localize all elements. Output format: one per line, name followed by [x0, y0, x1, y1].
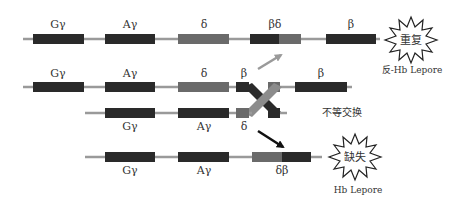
gene-beta: [295, 82, 347, 92]
label-a-gamma: Aγ: [122, 18, 138, 31]
label-g-gamma: Gγ: [50, 18, 66, 31]
gene-a-gamma: [178, 108, 229, 118]
row-parental-bottom: Gγ Aγ δ 不等交换: [85, 106, 362, 133]
gene-delta-beta-delta-part: [252, 152, 282, 162]
arrow-to-lepore: [258, 131, 283, 147]
label-g-gamma: Gγ: [122, 164, 138, 177]
label-delta: δ: [201, 67, 208, 80]
gene-g-gamma: [33, 82, 84, 92]
label-delta-beta: δβ: [276, 164, 289, 177]
gene-a-gamma: [178, 152, 229, 162]
label-delta: δ: [201, 18, 208, 31]
burst-duplication: 重复: [385, 17, 437, 63]
gene-delta-5prime: [236, 108, 249, 118]
burst-text-duplication: 重复: [400, 33, 422, 47]
gene-g-gamma: [33, 34, 84, 44]
label-beta-delta: βδ: [269, 18, 282, 31]
row-parental-top: Gγ Aγ δ β β: [23, 67, 352, 92]
caption-lepore: Hb Lepore: [334, 185, 383, 195]
gene-delta-beta-beta-part: [282, 152, 311, 162]
row-anti-lepore: Gγ Aγ δ βδ β 重复 反-Hb Lepore: [23, 17, 442, 75]
gene-beta: [326, 34, 376, 44]
gene-g-gamma: [105, 108, 155, 118]
gene-beta-3prime: [268, 108, 280, 118]
label-unequal-crossover: 不等交换: [322, 106, 362, 118]
gene-a-gamma: [105, 34, 155, 44]
gene-delta: [178, 82, 229, 92]
arrow-to-anti-lepore: [258, 55, 281, 69]
label-g-gamma: Gγ: [122, 120, 138, 133]
burst-text-deletion: 缺失: [344, 150, 366, 164]
label-beta-cross: β: [241, 67, 247, 80]
label-beta: β: [318, 67, 324, 80]
gene-beta-delta-beta-part: [250, 34, 279, 44]
label-delta-cross: δ: [241, 120, 248, 133]
unequal-crossover-diagram: Gγ Aγ δ βδ β 重复 反-Hb Lepore Gγ Aγ δ β β: [0, 0, 462, 205]
label-a-gamma: Aγ: [196, 164, 212, 177]
label-g-gamma: Gγ: [50, 67, 66, 80]
label-a-gamma: Aγ: [122, 67, 138, 80]
row-lepore: Gγ Aγ δβ 缺失 Hb Lepore: [85, 134, 382, 195]
gene-beta-delta-delta-part: [279, 34, 301, 44]
caption-anti-lepore: 反-Hb Lepore: [382, 65, 443, 75]
burst-deletion: 缺失: [329, 134, 381, 180]
label-a-gamma: Aγ: [196, 120, 212, 133]
gene-delta: [178, 34, 229, 44]
label-beta: β: [348, 18, 354, 31]
gene-a-gamma: [105, 82, 155, 92]
gene-g-gamma: [105, 152, 155, 162]
